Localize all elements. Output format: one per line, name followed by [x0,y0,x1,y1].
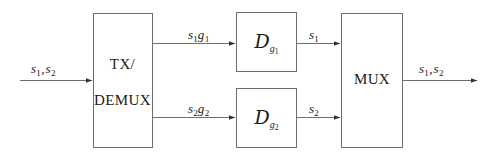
s2-sub: 2 [314,108,319,118]
signal-label-s2: s2 [309,102,319,115]
diagram-canvas [0,0,495,159]
s1g1-sub-2: 1 [204,34,209,44]
block-label-mux: MUX [341,72,403,87]
block-tx-demux [94,14,153,148]
input-base-2: s [46,61,51,76]
s2g2-sub-2: 2 [204,108,209,118]
block-label-tx: TX/ [93,57,152,72]
output-sub-2: 2 [439,68,444,78]
signal-label-s1: s1 [309,28,319,41]
output-sub-1: 1 [424,68,429,78]
block-label-demux: DEMUX [90,93,155,108]
decoder-1-sub-g: g [270,43,275,54]
s2g2-sub-1: 2 [193,108,198,118]
s1-sub: 1 [314,34,319,44]
block-label-decoder-1: Dg1 [236,32,297,51]
input-sub-2: 2 [51,68,56,78]
decoder-1-sub-index: 1 [275,47,279,56]
script-d-icon: D [255,30,270,52]
block-diagram: TX/ DEMUX MUX Dg1 Dg2 s1,s2 s1g1 s2g2 s1… [0,0,495,159]
block-label-decoder-2: Dg2 [236,108,297,127]
s1g1-sub-1: 1 [193,34,198,44]
input-sub-1: 1 [36,68,41,78]
signal-label-s1g1: s1g1 [188,28,209,41]
output-base-2: s [434,61,439,76]
signal-label-output: s1,s2 [419,62,443,75]
signal-label-input: s1,s2 [31,62,55,75]
signal-label-s2g2: s2g2 [188,102,209,115]
decoder-2-sub-g: g [270,119,275,130]
decoder-2-sub-index: 2 [275,123,279,132]
script-d-icon: D [255,106,270,128]
